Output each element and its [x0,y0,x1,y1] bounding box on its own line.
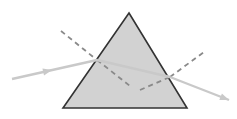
prism-refraction-figure [0,0,237,119]
diagram-canvas [0,0,237,119]
